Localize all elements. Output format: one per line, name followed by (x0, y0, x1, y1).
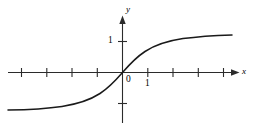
coordinate-plot (0, 0, 255, 129)
arrow-right-icon (231, 69, 240, 75)
figure-container: y x 0 1 1 (0, 0, 255, 129)
y-axis-label: y (126, 4, 130, 14)
x-axis-label: x (242, 66, 246, 76)
y-tick-label-1: 1 (108, 35, 113, 45)
x-tick-label-1: 1 (145, 78, 150, 88)
origin-label: 0 (126, 74, 131, 84)
arrow-up-icon (119, 16, 125, 25)
